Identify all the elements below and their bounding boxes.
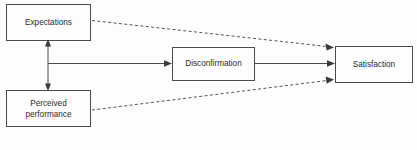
- node-label-perceived-performance-line1: Perceived: [30, 99, 67, 108]
- edge-expectations-to-satisfaction: [92, 21, 334, 51]
- edge-perceived-performance-to-satisfaction: [92, 77, 334, 110]
- node-expectations[interactable]: Expectations: [7, 5, 91, 41]
- diagram-canvas: Expectations Perceived performance Disco…: [0, 0, 417, 150]
- node-label-satisfaction: Satisfaction: [353, 60, 396, 69]
- arrowhead-right-icon: [327, 60, 335, 66]
- arrowhead-right-icon: [164, 60, 172, 66]
- edge-disconfirmation-to-satisfaction: [254, 60, 335, 66]
- node-label-perceived-performance-line2: performance: [26, 110, 72, 119]
- node-box[interactable]: [7, 91, 91, 127]
- diagram-svg: Expectations Perceived performance Disco…: [0, 0, 417, 150]
- arrowhead-right-icon: [326, 77, 334, 84]
- node-label-disconfirmation: Disconfirmation: [185, 59, 242, 68]
- edge-comparison-to-disconfirmation: [48, 60, 172, 66]
- arrowhead-right-icon: [326, 43, 335, 50]
- node-disconfirmation[interactable]: Disconfirmation: [173, 48, 255, 81]
- edge-line: [92, 21, 327, 47]
- node-satisfaction[interactable]: Satisfaction: [336, 47, 413, 83]
- node-label-expectations: Expectations: [25, 18, 72, 27]
- arrowhead-down-icon: [45, 84, 51, 92]
- edge-expectations-perceived-double: [45, 39, 51, 91]
- edge-line: [92, 81, 327, 111]
- node-perceived-performance[interactable]: Perceived performance: [7, 91, 91, 127]
